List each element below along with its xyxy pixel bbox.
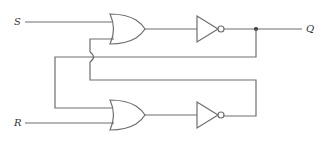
not-gate-top: [197, 16, 218, 42]
input-label-r: R: [13, 117, 22, 128]
sr-latch-diagram: S Q R: [0, 0, 328, 141]
wire-feedback-q-to-or-bottom: [55, 29, 256, 108]
or-gate-bottom: [110, 100, 145, 130]
wire-or-top-input-2: [90, 39, 114, 52]
not-top-bubble: [218, 26, 224, 32]
input-label-s: S: [14, 16, 21, 27]
not-gate-bottom: [197, 102, 218, 128]
output-label-q: Q: [306, 23, 314, 34]
not-bottom-bubble: [218, 112, 224, 118]
or-gate-top: [110, 14, 145, 44]
